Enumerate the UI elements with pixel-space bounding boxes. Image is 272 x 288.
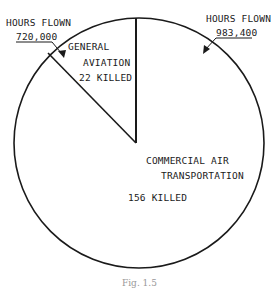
ga-name-line2: AVIATION bbox=[83, 57, 130, 68]
ga-arrow-icon bbox=[58, 50, 66, 58]
ca-killed: 156 KILLED bbox=[128, 192, 187, 203]
ca-hours-value: 983,400 bbox=[216, 27, 257, 38]
ga-name-line1: GENERAL bbox=[68, 41, 109, 52]
ca-name-line1: COMMERCIAL AIR bbox=[146, 155, 229, 166]
ca-name-line2: TRANSPORTATION bbox=[161, 170, 244, 181]
ga-hours-value: 720,000 bbox=[16, 31, 57, 42]
ga-killed: 22 KILLED bbox=[79, 72, 132, 83]
figure-caption: Fig. 1.5 bbox=[122, 278, 157, 288]
ga-hours-title: HOURS FLOWN bbox=[6, 17, 71, 28]
ca-hours-title: HOURS FLOWN bbox=[206, 13, 271, 24]
